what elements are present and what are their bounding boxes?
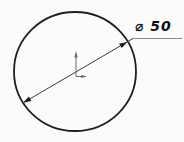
drawing-canvas: ⌀ 50 — [0, 0, 184, 142]
diameter-dimension-label: ⌀ 50 — [135, 19, 181, 33]
